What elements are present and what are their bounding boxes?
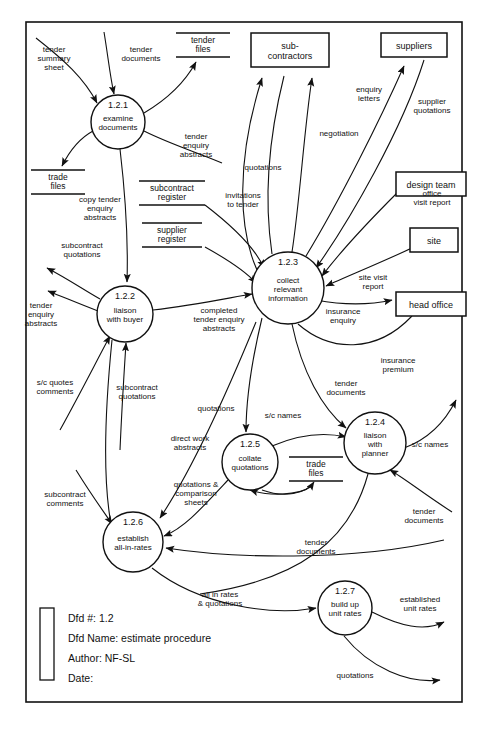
flow-label-line: documents: [121, 54, 160, 63]
data-store[interactable]: supplierregister: [142, 223, 202, 247]
external-entity[interactable]: site: [410, 228, 458, 252]
external-entity[interactable]: suppliers: [381, 33, 447, 57]
entity-label-line: suppliers: [396, 41, 433, 51]
flow-label-line: tender: [305, 538, 328, 547]
flow-label: subcontractcomments: [44, 490, 86, 508]
flow-label-line: tender: [43, 45, 66, 54]
flow-label-line: copy tender: [79, 195, 121, 204]
flow-label-line: to tender: [227, 200, 259, 209]
flow-label: s/c quotescomments: [37, 378, 74, 396]
process-1-2-1[interactable]: 1.2.1examinedocuments: [91, 95, 145, 149]
process-1-2-5[interactable]: 1.2.5collatequotations: [222, 434, 278, 490]
flow-label-line: abstracts: [180, 150, 212, 159]
flow-label: site visitreport: [359, 273, 388, 291]
flow-label-line: report: [363, 282, 385, 291]
flow-label: quotations: [337, 671, 374, 680]
external-entity[interactable]: sub-contractors: [251, 33, 329, 67]
flow-label-line: quotations: [245, 163, 282, 172]
flow-label: copy tenderenquiryabstracts: [79, 195, 121, 222]
flow-label-line: supplier: [418, 97, 446, 106]
store-label-line: register: [158, 192, 187, 202]
data-store[interactable]: tradefiles: [289, 457, 343, 481]
flow-label: s/c names: [412, 440, 448, 449]
process-name-line: with: [367, 440, 382, 449]
legend-line: Dfd Name: estimate procedure: [68, 632, 211, 644]
data-store[interactable]: subcontractregister: [139, 181, 205, 205]
flow-label: quotations: [198, 404, 235, 413]
flow-label-line: tender enquiry: [193, 315, 244, 324]
flow-label-line: quotations: [337, 671, 374, 680]
flow-label-line: subcontract: [116, 383, 158, 392]
process-name-line: relevant: [274, 285, 303, 294]
process-name-line: unit rates: [329, 609, 362, 618]
process-1-2-6[interactable]: 1.2.6establishall-in-rates: [103, 512, 163, 572]
flow-label-line: visit report: [414, 198, 452, 207]
flow-label-line: quotations &: [174, 480, 219, 489]
legend-line: Dfd #: 1.2: [68, 612, 114, 624]
flow-label-line: s/c names: [412, 440, 448, 449]
process-1-2-3[interactable]: 1.2.3collectrelevantinformation: [252, 252, 324, 324]
store-label-line: files: [308, 468, 323, 478]
process-name-line: examine: [103, 114, 134, 123]
legend-block: Dfd #: 1.2Dfd Name: estimate procedureAu…: [40, 608, 211, 684]
flow-label: quotations &comparisonsheets: [174, 480, 219, 507]
flow-label-line: documents: [296, 547, 335, 556]
process-1-2-4[interactable]: 1.2.4liaisonwithplanner: [344, 412, 406, 474]
flow-label-line: enquiry: [330, 316, 356, 325]
flow-label: quotations: [245, 163, 282, 172]
entity-label-line: site: [427, 236, 441, 246]
flow-labels: tendersummarysheettenderdocumentstendere…: [25, 45, 451, 680]
flow-label: direct workabstracts: [171, 434, 211, 452]
flow-label: insurancepremium: [381, 356, 416, 374]
data-store[interactable]: tradefiles: [31, 170, 85, 194]
flow-label-line: comments: [37, 387, 74, 396]
flow-label-line: summary: [38, 54, 71, 63]
flow-label: tenderdocuments: [326, 379, 365, 397]
process-1-2-2[interactable]: 1.2.2liaisonwith buyer: [97, 286, 153, 342]
process-1-2-7[interactable]: 1.2.7build upunit rates: [318, 581, 372, 635]
flow-label: supplierquotations: [414, 97, 451, 115]
flow-label: tendersummarysheet: [38, 45, 71, 72]
process-id: 1.2.2: [115, 291, 135, 301]
flow-label: s/c names: [265, 411, 301, 420]
flow-label-line: subcontract: [61, 241, 103, 250]
flow-label: tenderenquiryabstracts: [180, 132, 212, 159]
legend-line: Date:: [68, 672, 93, 684]
flow-label-line: comparison: [175, 489, 216, 498]
flow-label: all in rates& quotations: [198, 590, 242, 608]
flow-label-line: completed: [201, 306, 238, 315]
store-label-line: files: [50, 181, 65, 191]
entity-label-line: contractors: [268, 51, 313, 61]
legend-line: Author: NF-SL: [68, 652, 135, 664]
flow-label-line: abstracts: [84, 213, 116, 222]
store-label-line: register: [158, 234, 187, 244]
flow-label-line: tender: [413, 507, 436, 516]
flow-label-line: quotations: [64, 250, 101, 259]
flow-label-line: tender: [335, 379, 358, 388]
flow-label-line: & quotations: [198, 599, 242, 608]
flow-label-line: office: [423, 189, 443, 198]
store-label-line: files: [195, 44, 210, 54]
flow-label-line: tender: [130, 45, 153, 54]
flow-label-line: direct work: [171, 434, 211, 443]
flow-label-line: site visit: [359, 273, 388, 282]
flow-label-line: enquiry: [87, 204, 113, 213]
flow-label-line: insurance: [326, 307, 361, 316]
flow-label-line: subcontract: [44, 490, 86, 499]
flow-label-line: enquiry: [183, 141, 209, 150]
entity-label-line: sub-: [281, 41, 299, 51]
flow-label-line: comments: [47, 499, 84, 508]
dfd-svg: tenderfilestradefilessubcontractregister…: [0, 0, 488, 733]
process-name-line: information: [268, 294, 308, 303]
flow-label-line: documents: [326, 388, 365, 397]
flow-label-line: quotations: [119, 392, 156, 401]
flow-label-line: sheet: [44, 63, 64, 72]
data-store[interactable]: tenderfiles: [176, 33, 230, 57]
process-name-line: documents: [98, 123, 137, 132]
process-name-line: build up: [331, 600, 360, 609]
external-entity[interactable]: head office: [396, 292, 466, 316]
flow-label: insuranceenquiry: [326, 307, 361, 325]
process-name-line: quotations: [232, 463, 269, 472]
process-id: 1.2.3: [278, 257, 298, 267]
flow-label-line: insurance: [381, 356, 416, 365]
